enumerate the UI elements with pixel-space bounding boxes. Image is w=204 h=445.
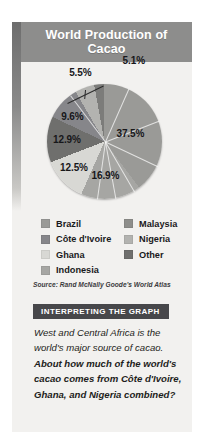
legend-item-ghana[interactable]: Ghana <box>41 247 111 263</box>
legend-item-brazil[interactable]: Brazil <box>41 216 111 232</box>
pie-slice-percent-label: 12.5% <box>60 162 88 173</box>
legend-label: Malaysia <box>139 219 177 229</box>
legend-swatch-icon <box>41 266 50 275</box>
legend-swatch-icon <box>41 219 50 228</box>
legend-item-nigeria[interactable]: Nigeria <box>124 232 177 248</box>
legend-swatch-icon <box>124 219 133 228</box>
legend-label: Other <box>139 250 164 260</box>
legend-column-right: Malaysia Nigeria Other <box>124 216 177 263</box>
interpretation-statement: West and Central Africa is the world's m… <box>34 327 163 353</box>
legend-column-left: Brazil Côte d'Ivoire Ghana Indonesia <box>41 216 111 278</box>
legend-swatch-icon <box>41 250 50 259</box>
interpreting-the-graph-heading: INTERPRETING THE GRAPH <box>33 304 169 319</box>
figure-panel: World Production of Cacao 37.5%16.9%12.5… <box>12 22 192 432</box>
legend-label: Brazil <box>56 219 81 229</box>
legend-item-other[interactable]: Other <box>124 247 177 263</box>
pie-slice-percent-label: 5.1% <box>123 55 145 66</box>
interpreting-the-graph-body: West and Central Africa is the world's m… <box>34 325 184 402</box>
panel-left-shadow-band <box>12 22 21 211</box>
legend-swatch-icon <box>41 235 50 244</box>
legend-item-malaysia[interactable]: Malaysia <box>124 216 177 232</box>
pie-slice-percent-label: 9.6% <box>61 111 83 122</box>
interpretation-question: About how much of the world's cacao come… <box>34 358 181 400</box>
pie-slice-percent-label: 37.5% <box>116 128 144 139</box>
page-title: World Production of Cacao <box>21 28 192 56</box>
pie-slice-percent-label: 16.9% <box>91 170 119 181</box>
chart-source-note: Source: Rand McNally Goode's World Atlas <box>33 281 193 288</box>
legend-item-indonesia[interactable]: Indonesia <box>41 263 111 279</box>
legend-label: Ghana <box>56 250 85 260</box>
legend-item-cote-divoire[interactable]: Côte d'Ivoire <box>41 232 111 248</box>
pie-slice-percent-label: 5.5% <box>69 67 91 78</box>
chart-title-bar: World Production of Cacao <box>21 22 192 62</box>
legend-swatch-icon <box>124 250 133 259</box>
chart-legend: Brazil Côte d'Ivoire Ghana Indonesia Mal… <box>21 216 192 278</box>
pie-chart-area: 37.5%16.9%12.5%12.9%9.6%5.5%5.1% <box>21 62 192 226</box>
legend-label: Nigeria <box>139 234 170 244</box>
legend-label: Indonesia <box>56 265 99 275</box>
legend-swatch-icon <box>124 235 133 244</box>
pie-slice-percent-label: 12.9% <box>53 134 81 145</box>
legend-label: Côte d'Ivoire <box>56 234 111 244</box>
